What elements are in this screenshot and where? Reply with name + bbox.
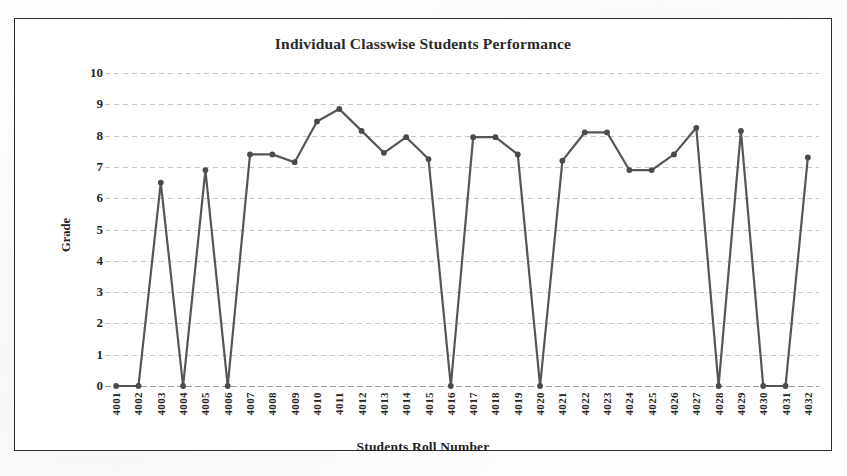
data-point-4027 — [693, 125, 699, 131]
data-point-4024 — [626, 167, 632, 173]
x-tick-4018: 4018 — [489, 392, 501, 416]
x-tick-4001: 4001 — [110, 392, 122, 416]
x-tick-4007: 4007 — [244, 392, 256, 416]
data-point-4029 — [738, 128, 744, 134]
x-tick-4016: 4016 — [445, 392, 457, 416]
chart-title: Individual Classwise Students Performanc… — [15, 35, 831, 53]
data-point-4016 — [448, 383, 454, 389]
y-tick-1: 1 — [69, 347, 103, 363]
data-point-4004 — [180, 383, 186, 389]
x-axis-title: Students Roll Number — [15, 439, 831, 455]
x-tick-4008: 4008 — [266, 392, 278, 416]
data-point-4013 — [381, 150, 387, 156]
x-tick-4021: 4021 — [556, 392, 568, 416]
series-line-grade — [105, 73, 819, 386]
x-tick-4020: 4020 — [534, 392, 546, 416]
data-point-4006 — [225, 383, 231, 389]
y-tick-0: 0 — [69, 378, 103, 394]
series-polyline — [116, 109, 808, 386]
x-tick-4025: 4025 — [646, 392, 658, 416]
y-tick-8: 8 — [69, 128, 103, 144]
gridline-0 — [105, 386, 819, 387]
x-tick-4027: 4027 — [690, 392, 702, 416]
x-tick-4023: 4023 — [601, 392, 613, 416]
data-point-4020 — [537, 383, 543, 389]
x-tick-4009: 4009 — [289, 392, 301, 416]
data-point-4007 — [247, 151, 253, 157]
x-tick-4032: 4032 — [802, 392, 814, 416]
x-tick-4005: 4005 — [199, 392, 211, 416]
x-tick-4014: 4014 — [400, 392, 412, 416]
x-tick-4017: 4017 — [467, 392, 479, 416]
x-tick-4022: 4022 — [579, 392, 591, 416]
data-point-4008 — [269, 151, 275, 157]
data-point-4005 — [203, 167, 209, 173]
data-point-4028 — [716, 383, 722, 389]
y-tick-2: 2 — [69, 315, 103, 331]
y-tick-10: 10 — [69, 65, 103, 81]
x-tick-4002: 4002 — [132, 392, 144, 416]
y-tick-5: 5 — [69, 222, 103, 238]
x-tick-4011: 4011 — [333, 392, 345, 415]
data-point-4023 — [604, 130, 610, 136]
data-point-4009 — [292, 159, 298, 165]
x-tick-4010: 4010 — [311, 392, 323, 416]
data-point-4003 — [158, 180, 164, 186]
data-point-4032 — [805, 155, 811, 161]
x-tick-4019: 4019 — [512, 392, 524, 416]
x-tick-4024: 4024 — [623, 392, 635, 416]
data-point-4011 — [336, 106, 342, 112]
data-point-4022 — [582, 130, 588, 136]
data-point-4001 — [113, 383, 119, 389]
x-tick-4006: 4006 — [222, 392, 234, 416]
data-point-4030 — [760, 383, 766, 389]
x-tick-4015: 4015 — [423, 392, 435, 416]
data-point-4015 — [426, 156, 432, 162]
x-tick-4012: 4012 — [356, 392, 368, 416]
plot-area — [105, 73, 819, 386]
data-point-4026 — [671, 151, 677, 157]
y-tick-9: 9 — [69, 96, 103, 112]
data-point-4019 — [515, 151, 521, 157]
y-tick-3: 3 — [69, 284, 103, 300]
y-tick-7: 7 — [69, 159, 103, 175]
x-tick-4030: 4030 — [757, 392, 769, 416]
x-tick-4003: 4003 — [155, 392, 167, 416]
data-point-4031 — [783, 383, 789, 389]
x-tick-4013: 4013 — [378, 392, 390, 416]
data-point-4021 — [560, 158, 566, 164]
x-tick-4026: 4026 — [668, 392, 680, 416]
data-point-4018 — [493, 134, 499, 140]
x-tick-4028: 4028 — [713, 392, 725, 416]
data-point-4014 — [403, 134, 409, 140]
figure-frame: Individual Classwise Students Performanc… — [14, 18, 832, 451]
data-point-4010 — [314, 119, 320, 125]
y-tick-6: 6 — [69, 190, 103, 206]
x-tick-4029: 4029 — [735, 392, 747, 416]
data-point-4017 — [470, 134, 476, 140]
y-tick-4: 4 — [69, 253, 103, 269]
data-point-4002 — [136, 383, 142, 389]
x-tick-4004: 4004 — [177, 392, 189, 416]
data-point-4025 — [649, 167, 655, 173]
x-tick-4031: 4031 — [780, 392, 792, 416]
data-point-4012 — [359, 128, 365, 134]
